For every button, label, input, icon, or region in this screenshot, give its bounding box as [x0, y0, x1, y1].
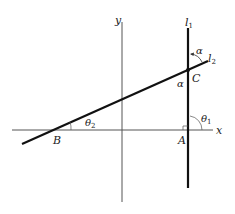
theta1-label: θ1: [201, 113, 212, 126]
theta2-label: θ2: [85, 117, 96, 130]
alpha-bottom-label: α: [177, 78, 184, 89]
point-b-label: B: [52, 134, 61, 147]
point-c-dot: [186, 68, 190, 72]
l2-label: l2: [208, 52, 216, 66]
alpha-arrow-icon: [190, 53, 194, 57]
y-axis-label: y: [114, 14, 122, 27]
point-a-label: A: [177, 134, 186, 147]
diagram-canvas: y x l1 l2 C A B α α θ1 θ2: [0, 0, 235, 214]
point-c-label: C: [192, 72, 201, 85]
x-axis-label: x: [216, 124, 223, 137]
l1-label: l1: [185, 16, 193, 30]
line-l2: [22, 61, 208, 144]
alpha-top-label: α: [196, 45, 203, 56]
